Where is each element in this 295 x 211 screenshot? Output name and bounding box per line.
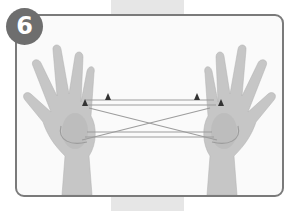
illustration-frame bbox=[15, 14, 284, 197]
step-number-badge: 6 bbox=[6, 8, 43, 45]
tape-top bbox=[111, 0, 184, 15]
triangle-marker-icon bbox=[105, 93, 111, 100]
hands-string-illustration bbox=[17, 16, 282, 195]
left-hand bbox=[24, 45, 96, 195]
tape-bottom bbox=[111, 195, 184, 211]
triangle-marker-icon bbox=[194, 93, 200, 100]
right-hand bbox=[204, 45, 276, 195]
